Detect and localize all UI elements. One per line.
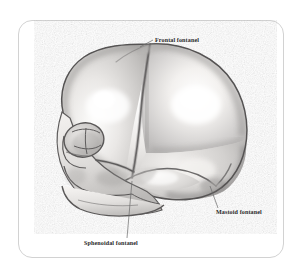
figure-root: Frontal fontanel Mastoid fontanel Spheno… [0,0,304,275]
label-frontal-fontanel: Frontal fontanel [155,37,199,43]
cranium-group [55,38,256,216]
skull-illustration [0,0,304,275]
label-sphenoidal-fontanel: Sphenoidal fontanel [84,240,138,246]
label-mastoid-fontanel: Mastoid fontanel [216,209,262,215]
